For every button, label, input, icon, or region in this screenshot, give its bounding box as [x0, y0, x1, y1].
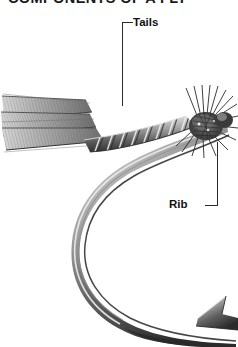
fly-body — [84, 110, 196, 160]
fly-illustration-svg — [0, 0, 238, 347]
fly-illustration — [0, 0, 238, 347]
callout-label-rib: Rib — [169, 198, 188, 210]
rib-leader-horizontal — [205, 205, 218, 206]
page-title: COMPONENTS OF A FLY — [8, 0, 187, 6]
rib-leader-vertical — [217, 142, 218, 206]
figure-canvas: COMPONENTS OF A FLY Tails Rib — [0, 0, 238, 347]
tails-leader-vertical — [122, 22, 123, 106]
callout-label-tails: Tails — [133, 16, 158, 28]
hook — [71, 124, 238, 347]
tails-leader-horizontal — [122, 22, 133, 23]
tail-fibers — [0, 90, 120, 164]
hook-barb — [196, 296, 238, 330]
figure-title-clip: COMPONENTS OF A FLY — [0, 0, 238, 7]
